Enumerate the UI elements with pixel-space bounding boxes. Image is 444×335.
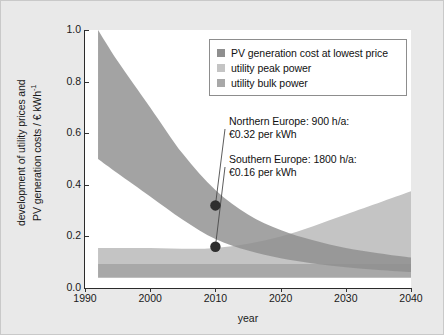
legend-label-pv-generation-cost: PV generation cost at lowest price xyxy=(231,47,388,59)
x-tick-mark xyxy=(85,288,86,292)
y-axis-title-line1: development of utility prices and xyxy=(15,79,27,226)
y-axis-line xyxy=(84,30,85,289)
annotation-southern-europe: Southern Europe: 1800 h/a: €0.16 per kWh xyxy=(229,153,357,178)
annotation-southern-europe-line2: €0.16 per kWh xyxy=(229,166,357,179)
x-tick-mark xyxy=(411,288,412,292)
x-axis-ticks: 199020002010202020302040 xyxy=(1,292,444,312)
x-tick-mark xyxy=(346,288,347,292)
y-tick-label: 1.0 xyxy=(51,23,81,35)
legend-swatch-pv-generation-cost xyxy=(217,49,225,57)
y-tick-label: 0.6 xyxy=(51,126,81,138)
data-point-marker xyxy=(210,242,220,252)
y-tick-label: 0.4 xyxy=(51,178,81,190)
y-tick-mark xyxy=(85,133,89,134)
y-axis-title-line2: PV generation costs / € kWh-1 xyxy=(28,19,43,287)
legend-item-pv-generation-cost: PV generation cost at lowest price xyxy=(217,45,399,60)
x-tick-mark xyxy=(215,288,216,292)
x-tick-label: 1990 xyxy=(62,292,108,304)
data-point-marker xyxy=(210,200,220,210)
x-tick-label: 2040 xyxy=(388,292,434,304)
x-tick-label: 2000 xyxy=(127,292,173,304)
y-tick-label: 0.2 xyxy=(51,229,81,241)
annotation-southern-europe-line1: Southern Europe: 1800 h/a: xyxy=(229,153,357,166)
x-axis-line xyxy=(84,288,412,289)
x-tick-mark xyxy=(150,288,151,292)
y-tick-mark xyxy=(85,236,89,237)
y-axis-ticks: 0.00.20.40.60.81.0 xyxy=(49,1,81,335)
y-tick-mark xyxy=(85,30,89,31)
y-tick-mark xyxy=(85,185,89,186)
legend-label-utility-peak-power: utility peak power xyxy=(231,62,311,74)
x-axis-title: year xyxy=(85,312,411,324)
chart-legend: PV generation cost at lowest price utili… xyxy=(209,39,407,96)
annotation-northern-europe-line2: €0.32 per kWh xyxy=(229,128,349,141)
y-axis-title: development of utility prices and PV gen… xyxy=(15,19,43,287)
legend-swatch-utility-bulk-power xyxy=(217,79,225,87)
y-axis-title-exponent: -1 xyxy=(29,85,38,91)
annotation-northern-europe-line1: Northern Europe: 900 h/a: xyxy=(229,115,349,128)
legend-item-utility-bulk-power: utility bulk power xyxy=(217,75,399,90)
y-tick-label: 0.8 xyxy=(51,75,81,87)
x-tick-label: 2020 xyxy=(258,292,304,304)
legend-swatch-utility-peak-power xyxy=(217,64,225,72)
annotation-northern-europe: Northern Europe: 900 h/a: €0.32 per kWh xyxy=(229,115,349,140)
legend-label-utility-bulk-power: utility bulk power xyxy=(231,77,308,89)
chart-figure: development of utility prices and PV gen… xyxy=(0,0,444,335)
x-tick-mark xyxy=(281,288,282,292)
x-tick-label: 2010 xyxy=(192,292,238,304)
x-tick-label: 2030 xyxy=(323,292,369,304)
y-tick-mark xyxy=(85,82,89,83)
legend-item-utility-peak-power: utility peak power xyxy=(217,60,399,75)
